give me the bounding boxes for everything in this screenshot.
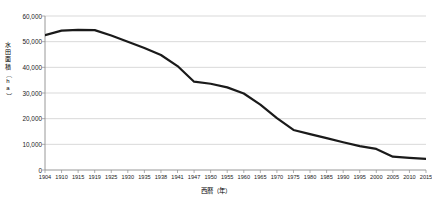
x-axis-tick-label: 1955 (221, 174, 233, 181)
x-axis-tick-label: 1980 (304, 174, 316, 181)
x-axis-tick-label: 2000 (370, 174, 382, 181)
x-axis-tick-label: 2005 (387, 174, 399, 181)
y-axis-tick-label: 60,000 (2, 13, 42, 20)
x-axis-tick-label: 1965 (254, 174, 266, 181)
y-axis-tick-label: 10,000 (2, 141, 42, 148)
y-axis-tick-label: 50,000 (2, 38, 42, 45)
series-polyline (45, 30, 426, 159)
x-axis-tick-label: 1935 (138, 174, 150, 181)
data-series-line (45, 16, 426, 170)
x-axis-tick-label: 2010 (403, 174, 415, 181)
x-axis-tick-label: 1970 (271, 174, 283, 181)
x-axis-tick-label: 1941 (171, 174, 183, 181)
x-axis-tick-label: 1947 (188, 174, 200, 181)
x-axis-tick-labels: 1904191019151919192519301935193819411947… (45, 172, 426, 186)
x-axis-tick-label: 2015 (420, 174, 432, 181)
y-axis-tick-label: 0 (2, 167, 42, 174)
y-axis-tick-label: 40,000 (2, 64, 42, 71)
x-axis-tick-label: 1938 (155, 174, 167, 181)
x-axis-tick-label: 1930 (122, 174, 134, 181)
x-axis-tick-label: 1919 (88, 174, 100, 181)
y-axis-tick-label: 30,000 (2, 90, 42, 97)
x-axis-tick-label: 1960 (238, 174, 250, 181)
x-axis-tick-label: 1975 (287, 174, 299, 181)
y-axis-tick-labels: 010,00020,00030,00040,00050,00060,000 (0, 0, 42, 204)
x-axis-tick-label: 1910 (55, 174, 67, 181)
x-axis-tick-label: 1985 (320, 174, 332, 181)
x-axis-tick-label: 1904 (39, 174, 51, 181)
x-axis-tick-label: 1950 (204, 174, 216, 181)
x-axis-tick-label: 1995 (354, 174, 366, 181)
y-axis-tick-label: 20,000 (2, 115, 42, 122)
x-axis-title: 西暦（年） (0, 186, 431, 195)
x-axis-tick-label: 1915 (72, 174, 84, 181)
x-axis-tick-label: 1925 (105, 174, 117, 181)
plot-area (45, 16, 426, 170)
x-axis-tick-label: 1990 (337, 174, 349, 181)
